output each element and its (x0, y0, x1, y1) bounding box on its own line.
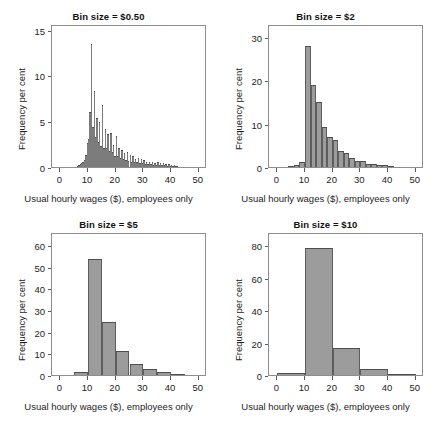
y-axis-tick-label: 40 (232, 306, 262, 317)
x-axis-tick-label: 10 (299, 382, 310, 393)
x-axis-tick (170, 168, 171, 172)
x-axis-tick (276, 376, 277, 380)
x-axis-tick-label: 30 (137, 174, 148, 185)
x-axis-tick (304, 168, 305, 172)
x-axis-tick (59, 168, 60, 172)
y-axis-tick-label: 0 (15, 163, 45, 174)
x-axis-tick-label: 10 (82, 382, 93, 393)
x-axis-tick-label: 0 (57, 174, 62, 185)
histogram-bar (388, 374, 416, 375)
histogram-bar (143, 369, 157, 375)
y-axis-tick-label: 10 (232, 119, 262, 130)
x-axis-tick-label: 40 (165, 174, 176, 185)
panel-bin-050: Bin size = $0.50 Frequency per cent Usua… (0, 0, 217, 211)
y-axis-tick (265, 168, 269, 169)
y-axis-tick (48, 31, 52, 32)
y-axis-tick (265, 279, 269, 280)
y-axis-tick-label: 60 (232, 273, 262, 284)
x-axis-label-3: Usual hourly wages ($), employees only (217, 401, 434, 412)
x-axis-tick (415, 376, 416, 380)
x-axis-tick (276, 168, 277, 172)
histogram-bar (360, 369, 388, 375)
x-axis-tick-label: 30 (137, 382, 148, 393)
y-axis-tick-label: 30 (232, 33, 262, 44)
histogram-bar (102, 322, 116, 375)
x-axis-tick (87, 376, 88, 380)
y-axis-tick-label: 40 (15, 284, 45, 295)
x-axis-tick-label: 30 (354, 382, 365, 393)
x-axis-tick-label: 40 (165, 382, 176, 393)
y-axis-tick (265, 38, 269, 39)
x-axis-tick-label: 50 (192, 174, 203, 185)
x-axis-tick-label: 50 (409, 382, 420, 393)
x-axis-label-0: Usual hourly wages ($), employees only (0, 193, 217, 204)
x-axis-tick-label: 20 (109, 382, 120, 393)
x-axis-tick (170, 376, 171, 380)
y-axis-tick (48, 311, 52, 312)
histogram-bar (88, 259, 102, 375)
x-axis-tick (387, 168, 388, 172)
x-axis-tick-label: 40 (382, 382, 393, 393)
plot-area-1 (268, 25, 423, 168)
x-axis-tick-label: 0 (57, 382, 62, 393)
x-axis-tick (115, 168, 116, 172)
x-axis-label-1: Usual hourly wages ($), employees only (217, 193, 434, 204)
x-axis-tick (304, 376, 305, 380)
x-axis-tick-label: 10 (82, 174, 93, 185)
y-axis-tick (48, 76, 52, 77)
y-axis-tick (265, 246, 269, 247)
y-axis-tick-label: 5 (15, 117, 45, 128)
y-axis-tick (48, 168, 52, 169)
plot-area-3 (268, 233, 423, 376)
bars-container-1 (269, 26, 422, 167)
x-axis-tick (59, 376, 60, 380)
y-axis-tick (265, 311, 269, 312)
plot-area-2 (51, 233, 206, 376)
x-axis-tick-label: 10 (299, 174, 310, 185)
x-axis-tick (115, 376, 116, 380)
y-axis-tick (48, 289, 52, 290)
bars-container-0 (52, 26, 205, 167)
panel-title-bin-050: Bin size = $0.50 (0, 11, 217, 22)
y-axis-tick (265, 376, 269, 377)
bars-container-2 (52, 234, 205, 375)
x-axis-tick (198, 376, 199, 380)
y-axis-tick-label: 80 (232, 241, 262, 252)
y-axis-tick (48, 354, 52, 355)
histogram-bar (171, 374, 185, 375)
y-axis-tick (265, 344, 269, 345)
x-axis-tick-label: 50 (192, 382, 203, 393)
x-axis-tick-label: 20 (326, 174, 337, 185)
panel-title-bin-5: Bin size = $5 (0, 219, 217, 230)
histogram-bar (277, 373, 305, 375)
y-axis-tick-label: 20 (15, 327, 45, 338)
histogram-bar (305, 248, 333, 375)
y-axis-tick-label: 0 (232, 163, 262, 174)
x-axis-tick (359, 168, 360, 172)
x-axis-tick (332, 376, 333, 380)
y-axis-tick-label: 15 (15, 25, 45, 36)
x-axis-tick-label: 0 (274, 174, 279, 185)
x-axis-tick-label: 50 (409, 174, 420, 185)
y-axis-tick-label: 10 (15, 349, 45, 360)
y-axis-tick-label: 50 (15, 262, 45, 273)
y-axis-tick-label: 0 (232, 371, 262, 382)
panel-title-bin-10: Bin size = $10 (217, 219, 434, 230)
histogram-bar (74, 372, 88, 375)
x-axis-label-2: Usual hourly wages ($), employees only (0, 401, 217, 412)
histogram-figure-grid: Bin size = $0.50 Frequency per cent Usua… (0, 0, 434, 421)
y-axis-tick-label: 10 (15, 71, 45, 82)
x-axis-tick (87, 168, 88, 172)
histogram-bar (388, 166, 394, 167)
panel-title-bin-2: Bin size = $2 (217, 11, 434, 22)
y-axis-tick (48, 122, 52, 123)
y-axis-tick-label: 20 (232, 338, 262, 349)
plot-area-0 (51, 25, 206, 168)
panel-bin-2: Bin size = $2 Frequency per cent Usual h… (217, 0, 434, 211)
y-axis-tick (48, 268, 52, 269)
y-axis-tick (48, 333, 52, 334)
histogram-bar (130, 364, 144, 375)
histogram-bar (333, 348, 361, 375)
x-axis-tick-label: 40 (382, 174, 393, 185)
y-axis-tick (48, 246, 52, 247)
